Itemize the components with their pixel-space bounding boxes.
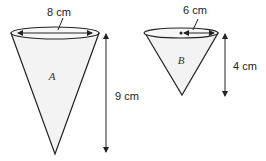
cones-diagram: 8 cm A 9 cm 6 cm B 4 cm [0, 0, 266, 161]
cone-b-radius-label: 6 cm [183, 4, 207, 16]
cone-b-center-dot [180, 32, 183, 35]
cone-a-height-label: 9 cm [115, 90, 139, 102]
cone-a-body [11, 33, 99, 154]
cone-a-label: A [48, 70, 56, 82]
cone-a-diameter-label: 8 cm [47, 6, 71, 18]
cone-b: 6 cm B 4 cm [144, 4, 257, 96]
cone-a: 8 cm A 9 cm [11, 6, 139, 154]
cone-b-label: B [178, 54, 185, 66]
cone-b-height-label: 4 cm [233, 60, 257, 72]
